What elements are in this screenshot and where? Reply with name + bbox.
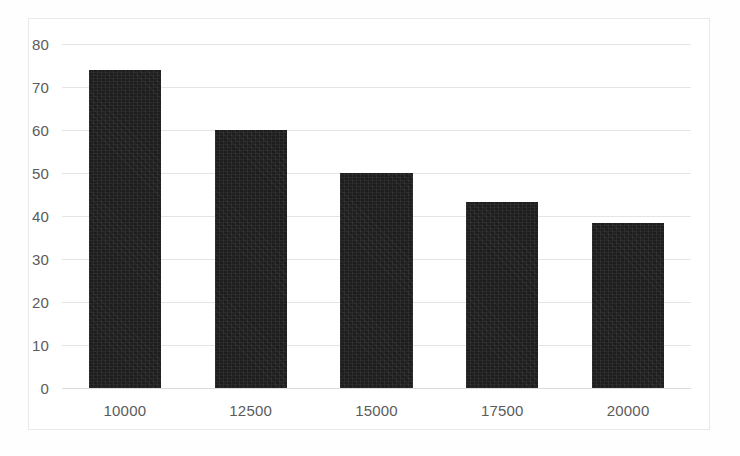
y-axis-tick-label: 0	[40, 380, 49, 397]
bars-layer	[62, 44, 691, 388]
bar	[89, 70, 161, 388]
x-axis-tick-label: 17500	[481, 402, 524, 419]
y-axis-tick-label: 20	[32, 294, 49, 311]
x-axis-tick-label: 12500	[229, 402, 272, 419]
y-axis-tick-label: 10	[32, 337, 49, 354]
y-axis-tick-label: 50	[32, 165, 49, 182]
bar-chart-figure: 01020304050607080 1000012500150001750020…	[0, 0, 740, 456]
y-axis-tick-label: 30	[32, 251, 49, 268]
bar	[340, 173, 412, 388]
x-axis-tick-label: 10000	[104, 402, 147, 419]
x-axis-baseline	[62, 388, 691, 389]
y-axis-tick-label: 80	[32, 36, 49, 53]
chart-plot-area: 01020304050607080 1000012500150001750020…	[62, 44, 691, 388]
y-axis-tick-label: 60	[32, 122, 49, 139]
bar	[592, 223, 664, 388]
chart-plot-frame: 01020304050607080 1000012500150001750020…	[28, 18, 710, 430]
bar	[466, 202, 538, 388]
x-axis-tick-label: 15000	[355, 402, 398, 419]
y-axis-tick-label: 70	[32, 79, 49, 96]
x-axis-tick-label: 20000	[607, 402, 650, 419]
y-axis-tick-label: 40	[32, 208, 49, 225]
bar	[215, 130, 287, 388]
